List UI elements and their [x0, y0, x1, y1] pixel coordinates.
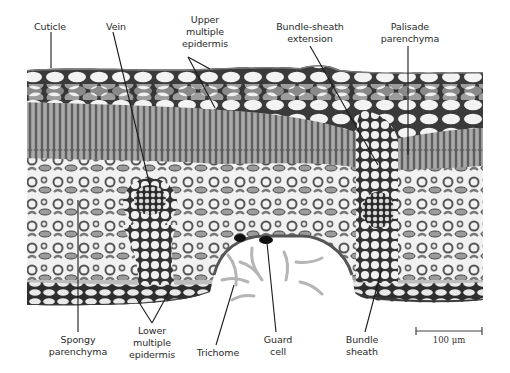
vein-right-xylem [362, 192, 394, 228]
vein-left [134, 185, 166, 215]
lower-multiple-epidermis-left [20, 282, 212, 310]
label-vein: Vein [106, 21, 126, 33]
label-spongy-parenchyma: Spongy parenchyma [49, 334, 107, 358]
leader-trichome [216, 285, 234, 345]
leader-guard-cell [267, 243, 276, 332]
label-bundle-sheath-extension: Bundle-sheath extension [276, 21, 344, 45]
scale-bar [416, 327, 482, 335]
guard-cell-left [234, 234, 246, 242]
label-trichome: Trichome [197, 347, 239, 359]
label-guard-cell: Guard cell [264, 334, 292, 358]
lower-multiple-epidermis-right [352, 282, 490, 310]
label-palisade-parenchyma: Palisade parenchyma [381, 21, 439, 45]
leaf-cross-section-figure: Cuticle Vein Upper multiple epidermis Bu… [0, 0, 510, 373]
scale-bar-label: 100 μm [433, 335, 466, 345]
label-lower-multiple-epidermis: Lower multiple epidermis [129, 325, 175, 361]
spongy-parenchyma-region [20, 150, 490, 280]
label-upper-multiple-epidermis: Upper multiple epidermis [182, 14, 228, 50]
label-bundle-sheath: Bundle sheath [346, 334, 378, 358]
guard-cell [259, 236, 273, 244]
label-cuticle: Cuticle [34, 21, 66, 33]
micrograph-illustration [0, 0, 510, 373]
